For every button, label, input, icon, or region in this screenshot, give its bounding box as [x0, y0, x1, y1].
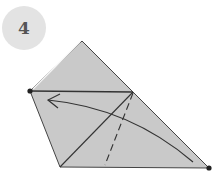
paper-shape — [30, 41, 209, 168]
origami-diagram — [0, 0, 221, 181]
left-corner-dot — [27, 88, 32, 93]
right-corner-dot — [206, 165, 211, 170]
